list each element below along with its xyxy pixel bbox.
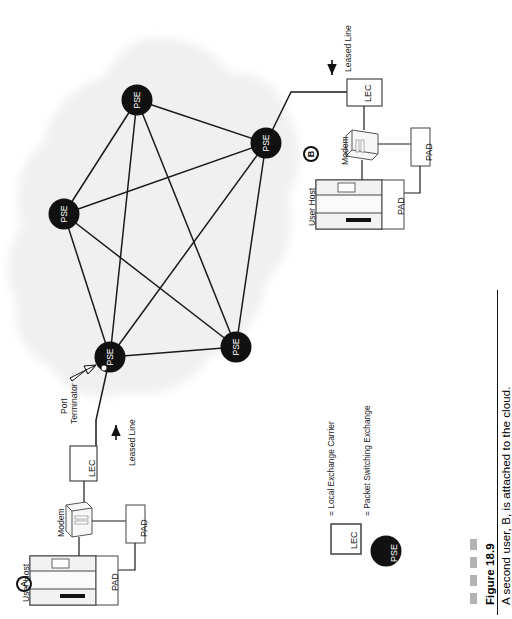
legend-pse-symbol-label: PSE [390,544,399,562]
port-terminator-label-line1: Port [60,398,69,414]
user-a-host-label: User Host [22,564,31,602]
network-diagram: PSEPSEPSEPSEPSE [0,0,512,619]
caption-dash [470,539,477,550]
user-a-pad-2-label: PAD [111,573,120,591]
pse-node-pse-bottom-left: PSE [95,342,126,373]
pse-node-label: PSE [132,91,142,108]
user-b-host-computer [316,180,404,229]
leased-line-label-left: Leased Line [128,419,137,466]
user-b-modem-label: Modem [341,136,350,165]
pse-node-pse-top: PSE [122,85,153,116]
pse-node-label: PSE [59,205,69,222]
pse-node-pse-bottom-right: PSE [221,332,252,363]
pse-node-pse-left: PSE [49,199,80,230]
legend-pse-description: = Packet Switching Exchange [363,405,371,516]
caption-dash [470,557,477,568]
user-b-host-label: User Host [308,188,317,226]
user-a-modem [66,502,92,537]
user-a-host-computer [30,556,118,605]
caption-dashes [470,387,477,604]
pse-node-label: PSE [231,338,241,355]
legend-lec-description: = Local Exchange Carrier [327,421,335,516]
pse-node-pse-right: PSE [251,128,282,159]
user-a-pad-1-label: PAD [140,519,149,537]
user-b-pad-2-label: PAD [397,197,406,215]
caption-rule [497,290,498,615]
user-a-lec-label: LEC [88,459,97,477]
user-b-lec-label: LEC [364,84,373,102]
caption-dash [470,593,477,604]
figure-caption-block: Figure 18.9 A second user, B, is attache… [470,387,512,605]
user-b-marker: B [303,146,319,162]
legend-lec-symbol-label: LEC [350,531,359,549]
figure-caption-text: A second user, B, is attached to the clo… [500,387,512,605]
port-terminator-label-line2: Terminator [70,383,79,424]
leased-line-label-right: Leased Line [344,25,353,72]
figure-page: PSEPSEPSEPSEPSE [0,0,512,619]
figure-number: Figure 18.9 [484,387,496,605]
user-a-modem-label: Modem [57,508,66,537]
pse-node-label: PSE [261,134,271,151]
svg-text:B: B [306,150,316,157]
caption-dash [470,575,477,586]
user-a-devices: A [16,425,145,605]
user-b-pad-1-label: PAD [425,143,434,161]
user-b-modem [346,130,378,160]
pse-node-label: PSE [105,348,115,365]
